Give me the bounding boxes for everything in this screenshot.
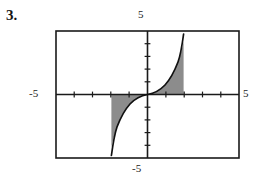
graph-figure: 5 -5 -5 5 bbox=[0, 0, 256, 182]
page-root: 3. bbox=[0, 0, 256, 182]
graph-canvas bbox=[0, 0, 256, 182]
axis-label-top: 5 bbox=[138, 9, 144, 20]
axis-label-bottom: -5 bbox=[132, 163, 141, 174]
axis-label-right: 5 bbox=[243, 88, 249, 99]
axis-label-left: -5 bbox=[29, 88, 38, 99]
